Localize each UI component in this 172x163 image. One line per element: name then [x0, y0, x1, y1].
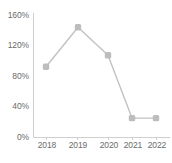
x-tick-label-2018: 2018	[32, 140, 62, 150]
data-point-2020	[105, 52, 111, 58]
y-tick-label-40: 40%	[0, 101, 29, 111]
y-tick-label-160: 160%	[0, 10, 29, 20]
data-point-markers	[43, 24, 159, 121]
data-point-2018	[43, 64, 49, 70]
data-point-2021	[129, 115, 135, 121]
data-series-line	[46, 27, 156, 118]
x-tick-label-2022: 2022	[142, 140, 172, 150]
y-tick-label-80: 80%	[0, 71, 29, 81]
data-point-2022	[153, 115, 159, 121]
y-tick-label-0: 0%	[0, 132, 29, 142]
x-tick-label-2019: 2019	[63, 140, 93, 150]
y-tick-label-120: 120%	[0, 40, 29, 50]
chart-caption: ​	[6, 155, 166, 163]
line-chart: 160% 120% 80% 40% 0% 2018 2019 2020 2021…	[0, 0, 172, 163]
data-point-2019	[75, 24, 81, 30]
